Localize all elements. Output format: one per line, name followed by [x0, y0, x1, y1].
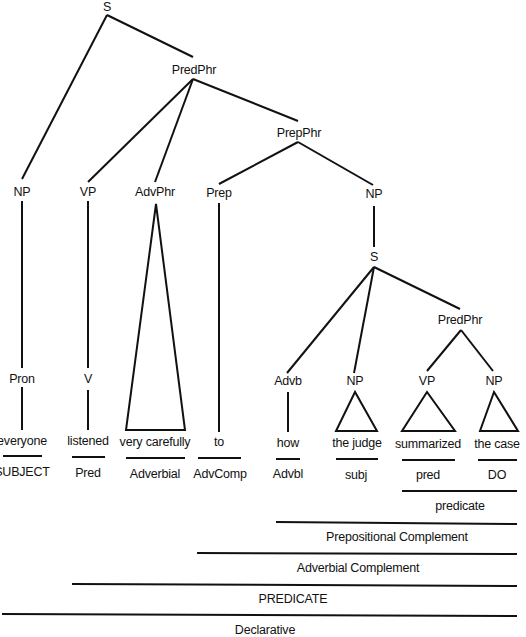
- node-predphr-main: PredPhr: [172, 63, 216, 77]
- span-adverbial-complement: Adverbial Complement: [297, 561, 419, 575]
- word-everyone: everyone: [0, 434, 47, 448]
- node-vp-summarized: VP: [419, 374, 435, 388]
- word-the-judge: the judge: [332, 436, 382, 450]
- word-summarized: summarized: [395, 437, 461, 451]
- function-subj: subj: [345, 468, 367, 482]
- node-np-judge: NP: [347, 374, 364, 388]
- node-prepphr: PrepPhr: [277, 126, 321, 140]
- function-advcomp: AdvComp: [193, 467, 246, 481]
- span-predicate-upper: PREDICATE: [259, 592, 328, 606]
- node-np-case: NP: [486, 374, 503, 388]
- node-np-object: NP: [366, 187, 383, 201]
- node-s-embedded: S: [370, 250, 378, 264]
- word-the-case: the case: [474, 437, 520, 451]
- node-advphr: AdvPhr: [135, 185, 175, 199]
- node-np-subject: NP: [14, 185, 31, 199]
- node-advb: Advb: [274, 374, 302, 388]
- node-pron: Pron: [9, 372, 35, 386]
- node-s-root: S: [103, 0, 111, 14]
- function-advbl: Advbl: [273, 467, 303, 481]
- function-do: DO: [488, 468, 506, 482]
- word-to: to: [214, 435, 224, 449]
- node-prep: Prep: [206, 186, 232, 200]
- word-listened: listened: [67, 434, 109, 448]
- word-very-carefully: very carefully: [120, 435, 191, 449]
- span-declarative: Declarative: [235, 623, 295, 637]
- node-vp-main: VP: [80, 185, 96, 199]
- span-predicate-lower: predicate: [435, 499, 485, 513]
- node-predphr-embedded: PredPhr: [438, 313, 482, 327]
- function-pred-lower: pred: [416, 468, 440, 482]
- word-how: how: [277, 436, 299, 450]
- span-prepositional-complement: Prepositional Complement: [326, 530, 468, 544]
- function-pred: Pred: [75, 466, 101, 480]
- function-subject: SUBJECT: [0, 465, 50, 479]
- node-v: V: [84, 372, 92, 386]
- function-adverbial: Adverbial: [130, 467, 180, 481]
